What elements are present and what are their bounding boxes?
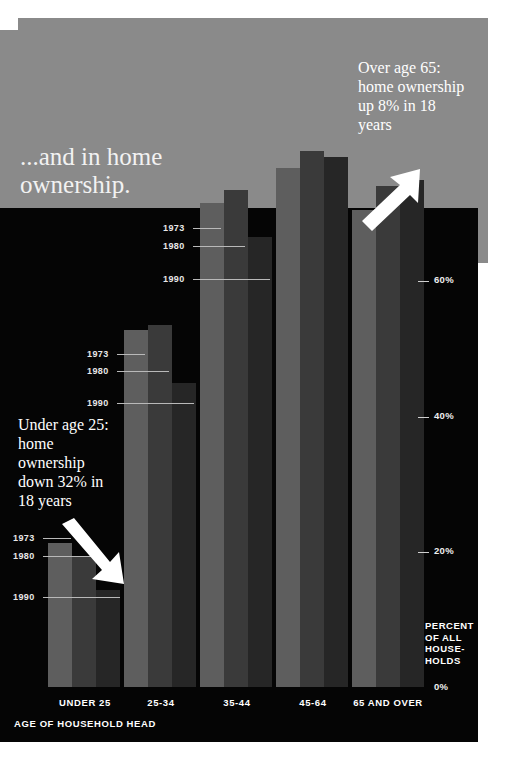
y-tick-label-40: 40%: [434, 410, 454, 421]
leader-line-25to34-1990: [117, 403, 194, 404]
y-tick-label-0: 0%: [434, 681, 448, 692]
year-label-25to34-1973: 1973: [87, 349, 109, 359]
callout-under-25: Under age 25: home ownership down 32% in…: [18, 415, 116, 510]
year-label-25to34-1990: 1990: [87, 398, 109, 408]
bar-35to44-1990: [248, 237, 272, 687]
bar-35to44-1980: [224, 190, 248, 687]
y-tick-20: [418, 552, 429, 553]
y-tick-label-60: 60%: [434, 274, 454, 285]
category-label-65andover: 65 AND OVER: [340, 697, 436, 708]
bar-65andover-1973: [352, 210, 376, 687]
bar-35to44-1973: [200, 203, 224, 687]
category-label-25to34: 25-34: [122, 697, 200, 708]
year-label-35to44-1990: 1990: [163, 274, 185, 284]
y-tick-40: [418, 417, 429, 418]
arrow-up-icon: [352, 165, 424, 235]
year-label-under25-1980: 1980: [13, 551, 35, 561]
year-label-under25-1973: 1973: [13, 533, 35, 543]
bar-under25-1990: [96, 590, 120, 687]
x-axis-title: AGE OF HOUSEHOLD HEAD: [14, 718, 156, 729]
bar-65andover-1980: [376, 186, 400, 687]
bar-45to64-1980: [300, 151, 324, 687]
bar-45to64-1990: [324, 157, 348, 687]
y-tick-60: [418, 281, 429, 282]
year-label-35to44-1980: 1980: [163, 241, 185, 251]
leader-line-25to34-1973: [117, 354, 145, 355]
bar-65andover-1990: [400, 180, 424, 687]
y-axis-title-line-1: PERCENT: [425, 620, 495, 632]
bar-25to34-1990: [172, 383, 196, 687]
year-label-35to44-1973: 1973: [163, 223, 185, 233]
callout-over-65: Over age 65: home ownership up 8% in 18 …: [358, 58, 468, 134]
bar-45to64-1973: [276, 168, 300, 687]
infographic-page: ...and in home ownership. 1973 1980 1990…: [0, 0, 506, 757]
leader-line-35to44-1973: [193, 228, 221, 229]
y-axis-title: PERCENT OF ALL HOUSE- HOLDS: [425, 620, 495, 666]
y-tick-label-20: 20%: [434, 545, 454, 556]
year-label-under25-1990: 1990: [13, 592, 35, 602]
leader-line-25to34-1980: [117, 371, 169, 372]
year-label-25to34-1980: 1980: [87, 366, 109, 376]
category-label-35to44: 35-44: [198, 697, 276, 708]
y-axis-title-line-3: HOUSE-: [425, 643, 495, 655]
bar-25to34-1980: [148, 325, 172, 687]
category-label-under25: UNDER 25: [46, 697, 124, 708]
leader-line-under25-1990: [43, 597, 120, 598]
x-axis-label-strip: [0, 687, 440, 742]
arrow-down-icon: [54, 518, 134, 590]
leader-line-35to44-1990: [193, 279, 270, 280]
y-axis-title-line-4: HOLDS: [425, 655, 495, 667]
leader-line-35to44-1980: [193, 246, 245, 247]
y-axis-title-line-2: OF ALL: [425, 632, 495, 644]
bar-25to34-1973: [124, 330, 148, 687]
